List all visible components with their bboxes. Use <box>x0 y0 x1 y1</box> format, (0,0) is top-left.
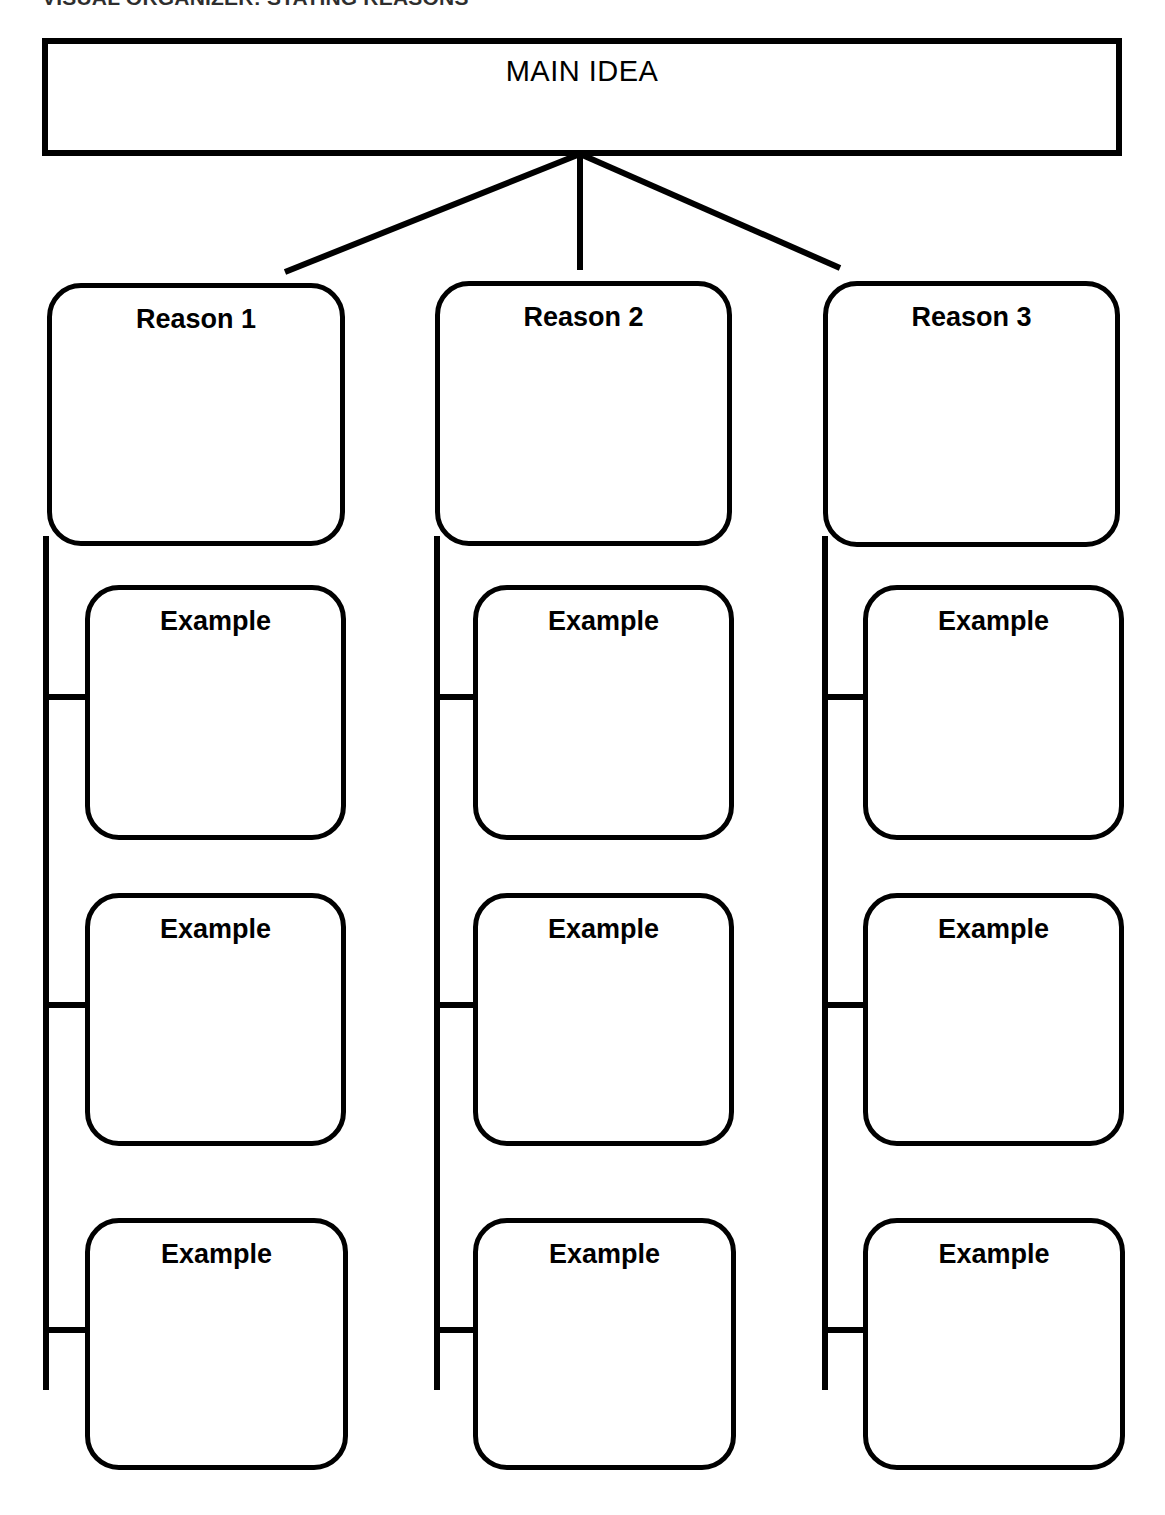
reason-label-2: Reason 2 <box>440 303 727 333</box>
reason-box-2[interactable]: Reason 2 <box>435 281 732 546</box>
example-label-1-2: Example <box>90 915 341 945</box>
example-box-3-2[interactable]: Example <box>863 893 1124 1146</box>
example-label-2-3: Example <box>478 1240 731 1270</box>
example-box-3-3[interactable]: Example <box>863 1218 1125 1470</box>
example-label-3-1: Example <box>868 607 1119 637</box>
main-idea-label: MAIN IDEA <box>48 56 1116 88</box>
example-box-2-2[interactable]: Example <box>473 893 734 1146</box>
example-label-2-2: Example <box>478 915 729 945</box>
branch-line-1 <box>285 154 580 272</box>
worksheet-page: VISUAL ORGANIZER: STATING REASONS MAIN I… <box>0 0 1165 1515</box>
example-label-1-3: Example <box>90 1240 343 1270</box>
example-label-2-1: Example <box>478 607 729 637</box>
example-box-1-3[interactable]: Example <box>85 1218 348 1470</box>
branch-line-3 <box>580 154 840 268</box>
example-label-3-2: Example <box>868 915 1119 945</box>
reason-label-3: Reason 3 <box>828 303 1115 333</box>
example-box-1-2[interactable]: Example <box>85 893 346 1146</box>
example-label-3-3: Example <box>868 1240 1120 1270</box>
reason-box-3[interactable]: Reason 3 <box>823 281 1120 547</box>
main-idea-box[interactable]: MAIN IDEA <box>42 38 1122 156</box>
example-box-2-3[interactable]: Example <box>473 1218 736 1470</box>
reason-label-1: Reason 1 <box>52 305 340 335</box>
example-box-1-1[interactable]: Example <box>85 585 346 840</box>
example-box-2-1[interactable]: Example <box>473 585 734 840</box>
reason-box-1[interactable]: Reason 1 <box>47 283 345 546</box>
example-label-1-1: Example <box>90 607 341 637</box>
example-box-3-1[interactable]: Example <box>863 585 1124 840</box>
